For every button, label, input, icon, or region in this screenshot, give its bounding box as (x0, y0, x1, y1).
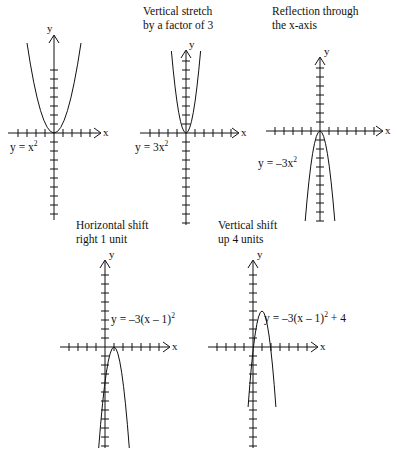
y-axis-label-horizontal-shift: y (109, 248, 115, 260)
graph-base (0, 20, 120, 225)
y-axis-label-vertical-stretch: y (189, 38, 195, 50)
x-axis-label-vertical-stretch: x (241, 126, 247, 138)
axes (140, 50, 239, 225)
equation-base: y = x2 (10, 141, 38, 153)
graph-horizontal-shift (52, 252, 192, 452)
equation-vertical-shift: y = –3(x – 1)2 + 4 (264, 312, 346, 324)
y-axis-label-base: y (47, 22, 53, 34)
x-axis-label-vertical-shift: x (320, 340, 326, 352)
caption-vertical-stretch: Vertical stretch by a factor of 3 (143, 5, 213, 32)
y-axis-label-reflection: y (324, 45, 330, 57)
x-axis-label-base: x (103, 126, 109, 138)
axes (208, 260, 318, 448)
caption-reflection: Reflection through the x-axis (272, 5, 359, 32)
parabola-curve (99, 347, 130, 448)
panel-reflection: x y (258, 45, 397, 225)
axes (60, 260, 170, 448)
panel-base: x y (0, 20, 120, 225)
panel-vertical-shift: x y (200, 252, 340, 452)
x-axis-label-horizontal-shift: x (172, 340, 178, 352)
caption-horizontal-shift: Horizontal shift right 1 unit (76, 219, 149, 246)
parabola-curve (248, 311, 276, 407)
graph-reflection (258, 45, 397, 225)
equation-horizontal-shift: y = –3(x – 1)2 (111, 313, 175, 325)
panel-vertical-stretch: x y (130, 40, 260, 230)
caption-vertical-shift: Vertical shift up 4 units (218, 219, 277, 246)
x-axis-label-reflection: x (385, 124, 391, 136)
equation-vertical-stretch: y = 3x2 (135, 141, 168, 153)
axes (8, 35, 101, 220)
graph-vertical-shift (200, 252, 340, 452)
equation-reflection: y = –3x2 (258, 157, 297, 169)
y-axis-label-vertical-shift: y (257, 248, 263, 260)
panel-horizontal-shift: x y (52, 252, 192, 452)
